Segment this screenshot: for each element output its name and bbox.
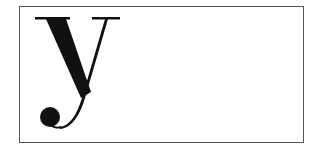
letter-y-glyph — [0, 0, 324, 149]
